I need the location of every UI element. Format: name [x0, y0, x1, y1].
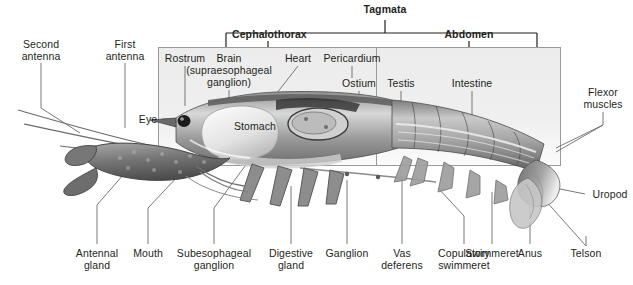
crayfish-anatomy-diagram: Tagmata Cephalothorax Abdomen Second ant…	[0, 0, 633, 285]
label-brain: Brain (supraesophageal ganglion)	[183, 52, 275, 88]
label-mouth: Mouth	[128, 247, 168, 259]
abdomen-title: Abdomen	[440, 28, 498, 40]
label-stomach: Stomach	[229, 120, 281, 132]
label-ganglion: Ganglion	[321, 247, 373, 259]
tagmata-bracket	[0, 0, 633, 285]
label-intestine: Intestine	[447, 77, 497, 89]
label-ostium: Ostium	[337, 77, 381, 89]
label-flexor-muscles: Flexor muscles	[578, 86, 628, 110]
label-heart: Heart	[281, 52, 315, 64]
label-second-antenna: Second antenna	[10, 38, 72, 62]
label-telson: Telson	[565, 247, 607, 259]
label-first-antenna: First antenna	[98, 38, 152, 62]
tagmata-title: Tagmata	[348, 3, 422, 15]
label-subesophageal-ganglion: Subesophageal ganglion	[170, 247, 258, 271]
label-vas-deferens: Vas deferens	[375, 247, 429, 271]
label-digestive-gland: Digestive gland	[263, 247, 319, 271]
label-pericardium: Pericardium	[317, 52, 387, 64]
cephalothorax-title: Cephalothorax	[232, 28, 304, 40]
label-testis: Testis	[383, 77, 419, 89]
label-eye: Eye	[136, 113, 160, 125]
label-uropod: Uropod	[588, 188, 632, 200]
label-antennal-gland: Antennal gland	[69, 247, 125, 271]
label-anus: Anus	[514, 247, 546, 259]
